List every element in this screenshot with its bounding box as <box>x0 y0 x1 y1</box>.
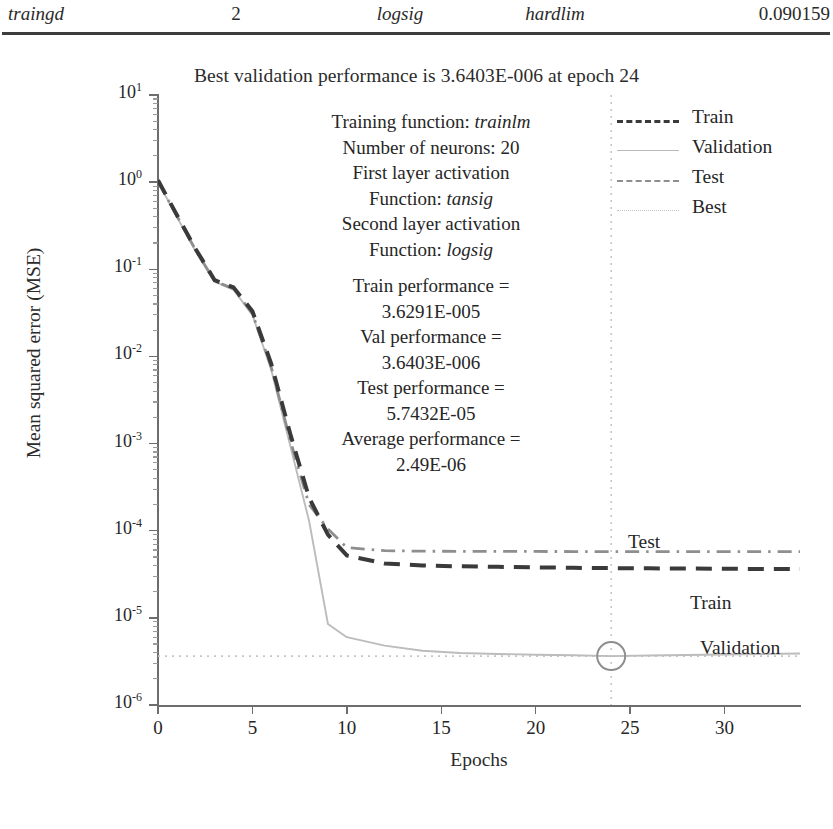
y-tick-minor <box>153 534 158 535</box>
y-tick-minor <box>153 98 158 99</box>
legend-line-train-icon <box>617 120 679 123</box>
y-tick-minor <box>153 201 158 202</box>
y-tick-minor <box>153 155 158 156</box>
y-tick-minor <box>153 663 158 664</box>
y-tick-minor <box>153 364 158 365</box>
y-tick-minor <box>153 208 158 209</box>
y-tick-label: 10-5 <box>0 605 158 626</box>
annotation-first-layer: First layer activation <box>352 162 509 183</box>
y-tick-minor <box>153 242 158 243</box>
y-tick-minor <box>153 129 158 130</box>
y-tick-minor <box>153 637 158 638</box>
legend-label-train: Train <box>692 106 734 128</box>
x-tick-major <box>346 705 347 714</box>
y-tick-minor <box>153 114 158 115</box>
table-cell-neurons: 2 <box>196 3 276 25</box>
y-tick-minor <box>153 277 158 278</box>
annotation-neurons: Number of neurons: 20 <box>343 137 520 158</box>
legend-label-best: Best <box>692 196 727 218</box>
y-tick-minor <box>153 462 158 463</box>
y-tick-minor <box>153 190 158 191</box>
legend-item-validation[interactable]: Validation <box>617 136 817 166</box>
y-tick-minor <box>153 504 158 505</box>
curve-label-validation: Validation <box>700 637 780 659</box>
x-tick-label: 20 <box>506 717 566 739</box>
y-tick-minor <box>153 643 158 644</box>
x-tick-label: 30 <box>694 717 754 739</box>
annotation-second-layer: Second layer activation <box>342 213 520 234</box>
x-tick-major <box>252 705 253 714</box>
table-cell-second-activation: hardlim <box>490 3 620 25</box>
annotation-training-function-value: trainlm <box>474 111 530 132</box>
y-tick-minor <box>153 330 158 331</box>
annotation-val-perf-label: Val performance = <box>360 326 502 347</box>
y-tick-minor <box>153 303 158 304</box>
y-tick-minor <box>153 447 158 448</box>
legend-item-train[interactable]: Train <box>617 106 817 136</box>
x-tick-major <box>535 705 536 714</box>
y-tick-minor <box>153 549 158 550</box>
annotation-block: Training function: trainlm Number of neu… <box>283 109 579 477</box>
y-tick-minor <box>153 369 158 370</box>
y-tick-minor <box>153 576 158 577</box>
legend-line-test-icon <box>617 180 679 182</box>
y-tick-minor <box>153 591 158 592</box>
legend-line-best-icon <box>617 210 679 211</box>
y-tick-minor <box>153 121 158 122</box>
annotation-train-perf-value: 3.6291E-005 <box>382 301 481 322</box>
table-bottom-rule <box>2 32 830 35</box>
y-tick-label: 101 <box>0 82 158 103</box>
table-row: traingd 2 logsig hardlim 0.090159 <box>0 0 833 30</box>
y-tick-minor <box>153 140 158 141</box>
y-tick-minor <box>153 626 158 627</box>
legend-line-validation-icon <box>617 150 679 151</box>
x-tick-major <box>441 705 442 714</box>
x-tick-label: 5 <box>222 717 282 739</box>
performance-chart: Best validation performance is 3.6403E-0… <box>0 42 833 829</box>
y-tick-minor <box>153 391 158 392</box>
y-tick-minor <box>153 631 158 632</box>
y-tick-minor <box>153 314 158 315</box>
table-cell-first-activation: logsig <box>340 3 460 25</box>
y-tick-minor <box>153 103 158 104</box>
chart-legend: Train Validation Test Best <box>617 106 817 226</box>
annotation-first-layer-fn-label: Function: <box>369 188 447 209</box>
y-tick-minor <box>153 108 158 109</box>
y-tick-minor <box>153 195 158 196</box>
y-tick-minor <box>153 678 158 679</box>
x-tick-label: 25 <box>600 717 660 739</box>
annotation-val-perf-value: 3.6403E-006 <box>382 352 481 373</box>
y-tick-minor <box>153 451 158 452</box>
y-tick-minor <box>153 375 158 376</box>
y-tick-minor <box>153 556 158 557</box>
y-tick-minor <box>153 539 158 540</box>
legend-label-test: Test <box>692 166 724 188</box>
y-tick-minor <box>153 295 158 296</box>
x-axis-title: Epochs <box>158 749 800 771</box>
y-tick-minor <box>153 478 158 479</box>
annotation-second-layer-fn-value: logsig <box>447 239 493 260</box>
y-tick-minor <box>153 652 158 653</box>
curve-label-test: Test <box>628 531 660 553</box>
legend-item-test[interactable]: Test <box>617 166 817 196</box>
legend-label-validation: Validation <box>692 136 772 158</box>
annotation-train-perf-label: Train performance = <box>353 275 510 296</box>
y-tick-minor <box>153 489 158 490</box>
y-tick-minor <box>153 401 158 402</box>
y-axis-title: Mean squared error (MSE) <box>23 113 45 593</box>
x-tick-major <box>157 705 158 714</box>
y-tick-minor <box>153 288 158 289</box>
y-tick-minor <box>153 621 158 622</box>
y-tick-minor <box>153 544 158 545</box>
y-tick-minor <box>153 456 158 457</box>
annotation-avg-perf-value: 2.49E-06 <box>396 454 466 475</box>
x-tick-label: 10 <box>317 717 377 739</box>
y-tick-minor <box>153 417 158 418</box>
annotation-test-perf-label: Test performance = <box>357 377 505 398</box>
y-tick-minor <box>153 382 158 383</box>
x-tick-major <box>724 705 725 714</box>
y-tick-minor <box>153 565 158 566</box>
legend-item-best[interactable]: Best <box>617 196 817 226</box>
y-tick-minor <box>153 273 158 274</box>
y-tick-minor <box>153 282 158 283</box>
